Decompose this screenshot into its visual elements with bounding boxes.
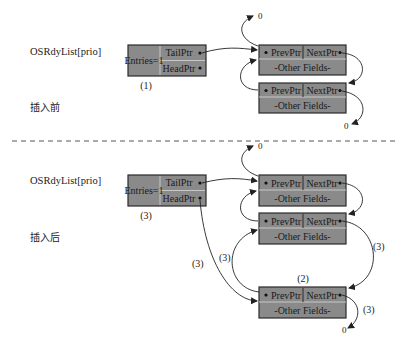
null-label: 0 xyxy=(342,325,347,335)
before-section: OSRdyList[prio] Entries=1 TailPtr HeadPt… xyxy=(30,11,363,131)
next-ptr-dot-icon xyxy=(338,89,341,92)
list-label: OSRdyList[prio] xyxy=(30,175,101,186)
other-fields-label: -Other Fields- xyxy=(274,62,330,73)
prev-null-arrow xyxy=(242,146,258,176)
next-ptr-dot-icon xyxy=(338,181,341,184)
tail-ptr-arrow xyxy=(202,48,257,53)
next-ptr-dot-icon xyxy=(338,51,341,54)
next-ptr-label: NextPtr xyxy=(306,178,338,189)
prev-ptr-dot-icon xyxy=(264,51,267,54)
next-ptr-label: NextPtr xyxy=(306,47,338,58)
step-label: (2) xyxy=(297,273,309,285)
new-prev-arrow xyxy=(232,230,259,292)
step-label: (3) xyxy=(192,258,204,270)
prev-ptr-label: PrevPtr xyxy=(271,216,302,227)
step-label: (3) xyxy=(373,241,385,253)
prev-arrow xyxy=(240,191,258,221)
entries-count: Entries=1 xyxy=(125,55,164,66)
prev-ptr-label: PrevPtr xyxy=(271,47,302,58)
tail-ptr-dot-icon xyxy=(198,181,201,184)
ready-list-head: Entries=1 TailPtr HeadPtr xyxy=(125,175,206,206)
prev-ptr-label: PrevPtr xyxy=(271,178,302,189)
tail-ptr-arrow xyxy=(202,179,257,183)
tail-ptr-dot-icon xyxy=(198,51,201,54)
head-ptr-label: HeadPtr xyxy=(163,63,196,74)
tcb-node: PrevPtr NextPtr -Other Fields- xyxy=(259,83,346,113)
tcb-node: PrevPtr NextPtr -Other Fields- xyxy=(259,175,346,206)
prev-null-arrow xyxy=(242,16,258,46)
next-ptr-label: NextPtr xyxy=(306,216,338,227)
head-ptr-label: HeadPtr xyxy=(163,193,196,204)
head-ptr-dot-icon xyxy=(198,66,201,69)
step-label: (3) xyxy=(219,252,231,264)
after-section: OSRdyList[prio] Entries=1 TailPtr HeadPt… xyxy=(30,141,385,335)
next-ptr-dot-icon xyxy=(338,293,341,296)
tail-ptr-label: TailPtr xyxy=(165,177,193,188)
linked-list-diagram: OSRdyList[prio] Entries=1 TailPtr HeadPt… xyxy=(0,0,403,346)
null-label: 0 xyxy=(344,121,349,131)
head-ptr-dot-icon xyxy=(198,196,201,199)
head-ptr-arrow xyxy=(200,200,257,301)
prev-ptr-dot-icon xyxy=(264,293,267,296)
entries-count: Entries=1 xyxy=(125,185,164,196)
tcb-node-new: PrevPtr NextPtr -Other Fields- xyxy=(259,287,346,318)
list-label: OSRdyList[prio] xyxy=(30,46,101,57)
prev-ptr-dot-icon xyxy=(264,89,267,92)
null-label: 0 xyxy=(258,11,263,21)
step-label: (3) xyxy=(140,210,152,222)
step-label: (1) xyxy=(140,80,152,92)
other-fields-label: -Other Fields- xyxy=(274,100,330,111)
new-next-arrow xyxy=(342,221,373,288)
other-fields-label: -Other Fields- xyxy=(274,193,330,204)
next-ptr-label: NextPtr xyxy=(306,85,338,96)
next-ptr-label: NextPtr xyxy=(306,290,338,301)
prev-ptr-dot-icon xyxy=(264,219,267,222)
tail-ptr-label: TailPtr xyxy=(165,47,193,58)
null-label: 0 xyxy=(258,141,263,151)
caption-after: 插入后 xyxy=(30,231,60,243)
ready-list-head: Entries=1 TailPtr HeadPtr xyxy=(125,45,206,76)
prev-arrow xyxy=(240,60,258,90)
other-fields-label: -Other Fields- xyxy=(274,231,330,242)
step-label: (3) xyxy=(363,304,375,316)
caption-before: 插入前 xyxy=(30,101,60,113)
other-fields-label: -Other Fields- xyxy=(274,305,330,316)
next-ptr-dot-icon xyxy=(338,219,341,222)
tcb-node: PrevPtr NextPtr -Other Fields- xyxy=(259,45,346,75)
prev-ptr-label: PrevPtr xyxy=(271,85,302,96)
tcb-node: PrevPtr NextPtr -Other Fields- xyxy=(259,213,346,244)
prev-ptr-label: PrevPtr xyxy=(271,290,302,301)
prev-ptr-dot-icon xyxy=(264,181,267,184)
